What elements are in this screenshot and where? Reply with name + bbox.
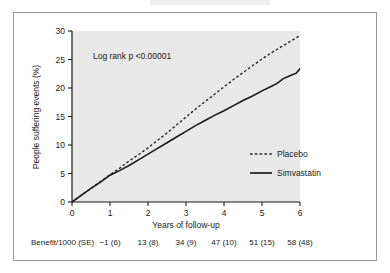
benefit-row-label: Benefit/1000 (SE) xyxy=(31,238,94,247)
x-tick-label: 5 xyxy=(260,208,265,218)
y-axis-ticks: 051015202530 xyxy=(56,26,72,207)
benefit-value: 34 (9) xyxy=(176,238,197,247)
chart-svg: 051015202530 0123456 People suffering ev… xyxy=(0,0,390,273)
benefit-value: −1 (6) xyxy=(99,238,120,247)
x-axis-ticks: 0123456 xyxy=(70,202,303,218)
y-tick-label: 25 xyxy=(56,55,66,65)
x-tick-label: 1 xyxy=(108,208,113,218)
figure-container: 051015202530 0123456 People suffering ev… xyxy=(0,0,390,273)
benefit-row-values: −1 (6)13 (8)34 (9)47 (10)51 (15)58 (48) xyxy=(99,238,313,247)
y-axis-label: People suffering events (%) xyxy=(31,65,41,169)
benefit-value: 51 (15) xyxy=(249,238,275,247)
x-tick-label: 3 xyxy=(184,208,189,218)
legend-label-placebo: Placebo xyxy=(277,149,308,159)
legend-label-simvastatin: Simvastatin xyxy=(277,168,321,178)
x-axis-label: Years of follow-up xyxy=(152,220,220,230)
x-tick-label: 4 xyxy=(222,208,227,218)
y-tick-label: 0 xyxy=(60,197,65,207)
benefit-value: 47 (10) xyxy=(211,238,237,247)
x-tick-label: 6 xyxy=(298,208,303,218)
benefit-value: 13 (8) xyxy=(138,238,159,247)
y-tick-label: 5 xyxy=(60,169,65,179)
y-tick-label: 20 xyxy=(56,83,66,93)
x-tick-label: 0 xyxy=(70,208,75,218)
x-tick-label: 2 xyxy=(146,208,151,218)
y-tick-label: 15 xyxy=(56,112,66,122)
y-tick-label: 30 xyxy=(56,26,66,36)
y-tick-label: 10 xyxy=(56,140,66,150)
log-rank-annotation: Log rank p <0.00001 xyxy=(93,51,171,61)
benefit-value: 58 (48) xyxy=(287,238,313,247)
